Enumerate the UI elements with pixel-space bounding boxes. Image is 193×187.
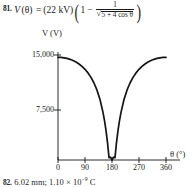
open-paren-icon: ( xyxy=(75,4,80,19)
fraction-numerator: 1 xyxy=(111,2,119,10)
equation-coefficient: (22 kV) xyxy=(43,6,73,16)
close-paren-icon: ) xyxy=(137,4,142,19)
radical-sign-icon: √ xyxy=(97,10,101,18)
fraction-denominator: √ 5 + 4 cos θ xyxy=(96,10,135,19)
square-root: √ 5 + 4 cos θ xyxy=(97,11,134,20)
next-problem-number: 82. xyxy=(3,176,14,187)
problem-82-statement: 82. 6.02 mm; 1.10 × 10−9 C xyxy=(3,176,193,187)
graph-figure: V (V) 15,000 7,500 0 90 180 270 360 θ (°… xyxy=(0,26,193,171)
minus-sign: − xyxy=(85,6,94,16)
radicand: 5 + 4 cos θ xyxy=(101,11,133,20)
fraction: 1 √ 5 + 4 cos θ xyxy=(96,2,135,20)
next-problem-text-part2: C xyxy=(88,177,96,187)
data-series-voltage-curve xyxy=(58,57,166,160)
problem-81-statement: 81. V(θ) = (22 kV) ( 1 − 1 √ 5 + 4 cos θ… xyxy=(3,1,193,27)
next-problem-text: 6.02 mm; 1.10 × 10−9 C xyxy=(14,176,95,187)
textbook-answer-page: 81. V(θ) = (22 kV) ( 1 − 1 √ 5 + 4 cos θ… xyxy=(0,0,193,187)
equation: V(θ) = (22 kV) ( 1 − 1 √ 5 + 4 cos θ ) xyxy=(14,1,143,20)
equation-lhs-variable: (θ) xyxy=(22,6,34,16)
plot-area xyxy=(0,26,193,171)
next-problem-text-part1: 6.02 mm; 1.10 × 10 xyxy=(14,177,81,187)
problem-number: 81. xyxy=(3,1,14,13)
equation-lhs-function: V xyxy=(14,6,21,16)
equals-sign: = xyxy=(34,6,43,16)
